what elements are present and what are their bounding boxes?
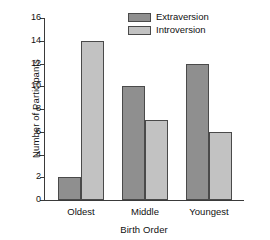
bar — [145, 120, 168, 200]
y-axis-tick-label: 10 — [31, 80, 41, 91]
y-axis-tick-label: 14 — [31, 35, 41, 46]
legend-item: Introversion — [128, 25, 209, 35]
y-axis-tick-label: 0 — [36, 194, 41, 205]
x-axis-tick-label: Oldest — [58, 206, 104, 217]
y-axis-tick-label: 6 — [36, 126, 41, 137]
legend-item: Extraversion — [128, 12, 209, 22]
y-axis-tick-label: 2 — [36, 171, 41, 182]
x-axis-tick-label: Middle — [122, 206, 168, 217]
y-axis-tick-label: 16 — [31, 12, 41, 23]
bar — [186, 64, 209, 201]
chart-legend: ExtraversionIntroversion — [128, 12, 209, 35]
legend-swatch-icon — [128, 26, 151, 35]
bar — [209, 132, 232, 200]
bar — [58, 177, 81, 200]
x-axis-tick-label: Youngest — [186, 206, 232, 217]
y-axis-line — [44, 18, 45, 201]
bar-chart: Number of Participants 0246810121416 Old… — [0, 0, 270, 240]
y-axis-tick-label: 8 — [36, 103, 41, 114]
bar — [122, 86, 145, 200]
legend-label: Introversion — [156, 25, 206, 35]
y-axis-tick-label: 12 — [31, 58, 41, 69]
x-axis-line — [44, 200, 244, 201]
bar — [81, 41, 104, 200]
legend-swatch-icon — [128, 13, 151, 22]
legend-label: Extraversion — [156, 12, 209, 22]
x-axis-title: Birth Order — [44, 224, 244, 235]
y-axis-tick-label: 4 — [36, 149, 41, 160]
plot-area: 0246810121416 OldestMiddleYoungest — [44, 18, 244, 201]
